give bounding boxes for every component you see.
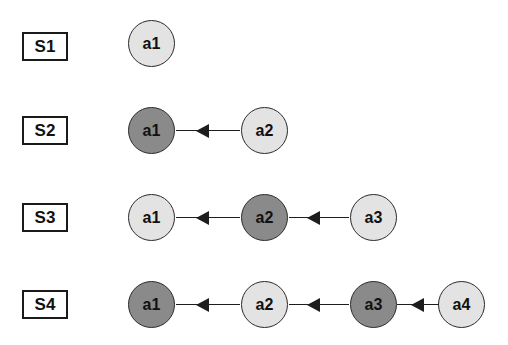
state-label-s2-text: S2 [35, 121, 56, 141]
state-label-s1: S1 [22, 32, 68, 61]
edge-s4-a4-to-a3-arrowhead [411, 298, 424, 312]
node-s4-a2: a2 [241, 281, 288, 328]
edge-s3-a3-to-a2-arrowhead [307, 211, 320, 225]
state-label-s2: S2 [22, 116, 68, 145]
node-s3-a2-label: a2 [256, 209, 274, 227]
node-s2-a2: a2 [241, 107, 288, 154]
node-s3-a1: a1 [128, 194, 175, 241]
node-s4-a3-label: a3 [365, 296, 383, 314]
node-s1-a1-label: a1 [143, 35, 161, 53]
node-s4-a4-label: a4 [453, 296, 471, 314]
node-s1-a1: a1 [128, 20, 175, 67]
state-label-s3: S3 [22, 203, 68, 232]
state-label-s1-text: S1 [35, 37, 56, 57]
node-s3-a3: a3 [350, 194, 397, 241]
node-s2-a2-label: a2 [256, 122, 274, 140]
edge-s4-a3-to-a2-arrowhead [307, 298, 320, 312]
node-s3-a3-label: a3 [365, 209, 383, 227]
state-label-s4: S4 [22, 290, 68, 319]
node-s4-a1-label: a1 [143, 296, 161, 314]
node-s4-a2-label: a2 [256, 296, 274, 314]
node-s4-a4: a4 [438, 281, 485, 328]
node-s3-a2: a2 [241, 194, 288, 241]
node-s4-a3: a3 [350, 281, 397, 328]
edge-s4-a2-to-a1-arrowhead [196, 298, 209, 312]
state-label-s4-text: S4 [35, 295, 56, 315]
edge-s2-a2-to-a1-arrowhead [196, 124, 209, 138]
node-s4-a1: a1 [128, 281, 175, 328]
edge-s3-a2-to-a1-arrowhead [196, 211, 209, 225]
state-label-s3-text: S3 [35, 208, 56, 228]
node-s2-a1-label: a1 [143, 122, 161, 140]
node-s3-a1-label: a1 [143, 209, 161, 227]
diagram-canvas: S1 a1 S2 a1 a2 S3 a1 a2 a3 S4 a1 a2 a3 a [0, 0, 508, 345]
node-s2-a1: a1 [128, 107, 175, 154]
